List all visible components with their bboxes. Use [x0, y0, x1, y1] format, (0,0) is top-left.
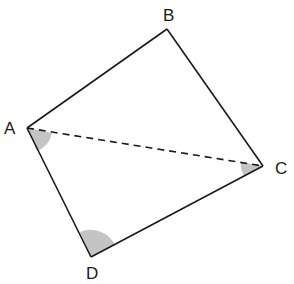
- edge-cd: [91, 166, 263, 257]
- vertex-label-b: B: [163, 6, 174, 25]
- edge-da: [27, 128, 91, 257]
- diagram-canvas: A B C D: [0, 0, 294, 284]
- vertex-label-d: D: [86, 264, 98, 283]
- diagonal-ac: [27, 128, 263, 166]
- edge-bc: [167, 29, 263, 166]
- angle-marker-c: [241, 162, 263, 176]
- vertex-label-c: C: [275, 159, 287, 178]
- edge-ab: [27, 29, 167, 128]
- quadrilateral-diagram: A B C D: [0, 0, 294, 284]
- vertex-label-a: A: [4, 119, 16, 138]
- angle-marker-a: [27, 128, 52, 151]
